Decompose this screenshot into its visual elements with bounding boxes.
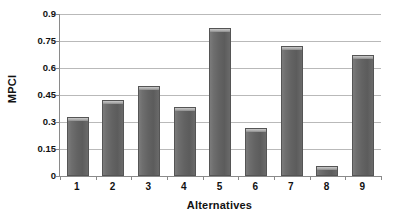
bar-slot — [310, 14, 346, 176]
x-axis-tick-mark — [131, 176, 132, 180]
y-axis-tick-label: 0.45 — [22, 90, 56, 100]
x-axis-tick-label: 1 — [74, 182, 80, 192]
bar-slot — [203, 14, 239, 176]
bar-slot — [131, 14, 167, 176]
x-axis-tick-mark — [238, 176, 239, 180]
x-axis-tick-label: 9 — [359, 182, 365, 192]
y-axis-title-label: MPCI — [6, 75, 18, 103]
bar-top-cap — [210, 29, 230, 32]
y-axis-tick-label: 0 — [22, 171, 56, 181]
x-axis-tick-mark — [60, 176, 61, 180]
bar-top-cap — [246, 129, 266, 132]
x-axis-tick-mark — [310, 176, 311, 180]
bar[interactable] — [209, 28, 231, 176]
bar-top-cap — [103, 101, 123, 104]
bar[interactable] — [352, 55, 374, 177]
y-axis-title: MPCI — [2, 0, 22, 178]
bar-slot — [238, 14, 274, 176]
bar-slot — [96, 14, 132, 176]
x-axis-tick-label: 3 — [145, 182, 151, 192]
bar[interactable] — [102, 100, 124, 176]
x-axis-tick-mark — [381, 176, 382, 180]
x-axis-tick-label: 7 — [288, 182, 294, 192]
bar-slot — [274, 14, 310, 176]
x-axis-tick-label: 2 — [110, 182, 116, 192]
x-axis-tick-label: 4 — [181, 182, 187, 192]
bar-chart: MPCI 00.150.30.450.60.750.9 123456789 Al… — [0, 0, 396, 220]
bar-top-cap — [282, 47, 302, 50]
bar[interactable] — [67, 117, 89, 176]
bar-top-cap — [317, 167, 337, 170]
y-axis-tick-label: 0.3 — [22, 117, 56, 127]
bar-top-cap — [353, 56, 373, 59]
bar[interactable] — [174, 107, 196, 176]
bar-slot — [60, 14, 96, 176]
x-axis-tick-label: 5 — [217, 182, 223, 192]
bar[interactable] — [281, 46, 303, 176]
bar-slot — [167, 14, 203, 176]
bar-top-cap — [68, 118, 88, 121]
bar[interactable] — [245, 128, 267, 176]
x-axis-title: Alternatives — [59, 199, 380, 211]
bar-top-cap — [175, 108, 195, 111]
x-axis-tick-mark — [167, 176, 168, 180]
x-axis-tick-mark — [96, 176, 97, 180]
x-axis-tick-label: 6 — [252, 182, 258, 192]
plot-area — [59, 14, 381, 177]
x-axis-tick-mark — [274, 176, 275, 180]
bar[interactable] — [316, 166, 338, 176]
x-axis-tick-mark — [345, 176, 346, 180]
y-axis-tick-label: 0.15 — [22, 144, 56, 154]
x-axis-tick-mark — [203, 176, 204, 180]
bar-top-cap — [139, 87, 159, 90]
y-axis-tick-label: 0.75 — [22, 36, 56, 46]
bar-slot — [345, 14, 381, 176]
y-axis-tick-labels: 00.150.30.450.60.750.9 — [22, 0, 56, 190]
bars-layer — [60, 14, 381, 176]
bar[interactable] — [138, 86, 160, 176]
y-axis-tick-label: 0.6 — [22, 63, 56, 73]
x-axis-tick-label: 8 — [324, 182, 330, 192]
y-axis-tick-label: 0.9 — [22, 9, 56, 19]
